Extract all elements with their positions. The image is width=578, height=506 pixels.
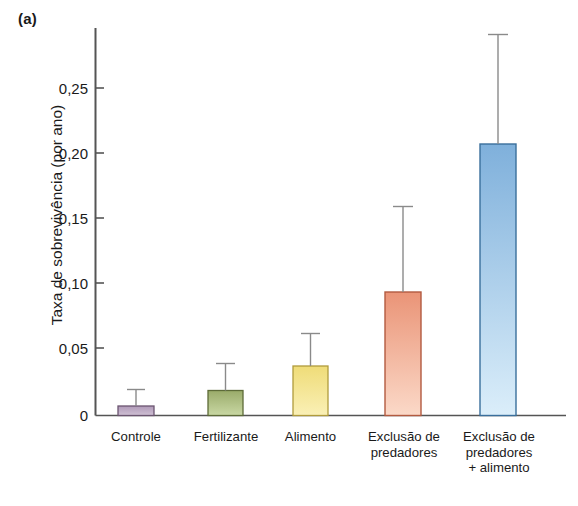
bar-controle: [118, 389, 154, 416]
x-label-exclusao-predadores: Exclusão de predadores: [358, 429, 450, 460]
y-axis-ticks: [96, 88, 105, 348]
errorbar-exclusao-predadores-alimento: [488, 34, 508, 144]
bar-alimento: [293, 333, 328, 416]
bar-fertilizante: [208, 363, 243, 416]
errorbar-controle: [127, 389, 145, 406]
errorbar-alimento: [301, 333, 320, 366]
x-label-exclusao-predadores-alimento: Exclusão de predadores + alimento: [453, 429, 545, 476]
x-label-fertilizante: Fertilizante: [181, 429, 271, 445]
x-label-alimento: Alimento: [273, 429, 348, 445]
chart-figure: (a) Taxa de sobrevivência (por ano) 0,25…: [0, 0, 578, 506]
errorbar-fertilizante: [216, 363, 235, 391]
errorbar-exclusao-predadores: [393, 206, 413, 292]
bar-exclusao-predadores: [385, 206, 421, 416]
x-label-controle: Controle: [96, 429, 176, 445]
bar-exclusao-predadores-alimento: [480, 34, 516, 416]
